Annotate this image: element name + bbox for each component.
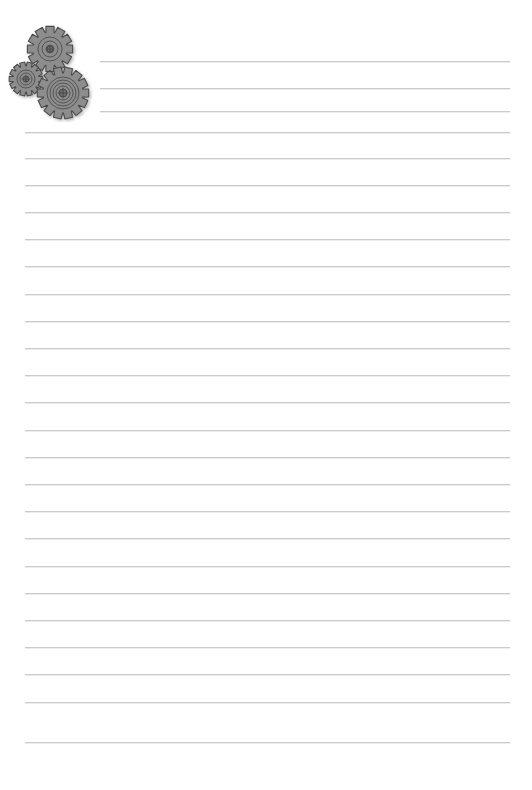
- ruled-line: [100, 88, 510, 89]
- ruled-line: [100, 111, 510, 112]
- note-page: Lined Note Paper with Gears: [0, 0, 532, 790]
- ruled-line: [25, 375, 510, 376]
- ruled-line: [25, 430, 510, 431]
- ruled-line: [25, 457, 510, 458]
- gear-medium-bottom-icon: [37, 67, 88, 119]
- ruled-line: [25, 266, 510, 267]
- gear-cluster-illustration: [2, 22, 106, 122]
- ruled-line: [25, 239, 510, 240]
- ruled-line: [25, 511, 510, 512]
- ruled-line: [25, 212, 510, 213]
- ruled-line: [25, 294, 510, 295]
- ruled-line: [25, 647, 510, 648]
- ruled-line: [25, 702, 510, 703]
- ruled-line: [25, 321, 510, 322]
- ruled-line: [25, 484, 510, 485]
- ruled-line: [100, 61, 510, 62]
- ruled-line: [25, 348, 510, 349]
- ruled-line: [25, 593, 510, 594]
- ruled-line: [25, 566, 510, 567]
- ruled-line: [25, 402, 510, 403]
- ruled-line: [25, 538, 510, 539]
- ruled-line: [25, 620, 510, 621]
- ruled-line: [25, 158, 510, 159]
- ruled-line: [25, 185, 510, 186]
- ruled-line: [25, 132, 510, 133]
- ruled-line: [25, 674, 510, 675]
- ruled-line: [25, 742, 510, 743]
